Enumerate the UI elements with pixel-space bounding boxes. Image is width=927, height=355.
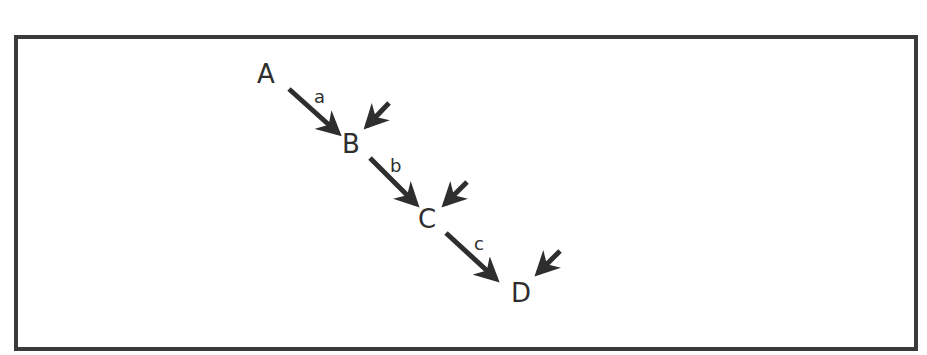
incoming-arrow-b-icon	[367, 103, 389, 126]
edge-a-b: a	[289, 86, 338, 133]
edge-label-c: c	[474, 233, 484, 254]
reaction-diagram: A B C D a b c	[0, 0, 927, 355]
node-d: D	[511, 278, 531, 308]
edge-b-c: b	[370, 155, 416, 204]
edge-c-d: c	[446, 233, 496, 279]
node-c: C	[418, 204, 436, 234]
edge-label-a: a	[314, 86, 325, 107]
node-b: B	[342, 129, 360, 159]
arrow-icon	[446, 233, 496, 279]
edge-label-b: b	[390, 155, 401, 176]
node-a: A	[257, 59, 275, 89]
incoming-arrow-d-icon	[538, 251, 560, 273]
incoming-arrow-c-icon	[445, 182, 467, 204]
